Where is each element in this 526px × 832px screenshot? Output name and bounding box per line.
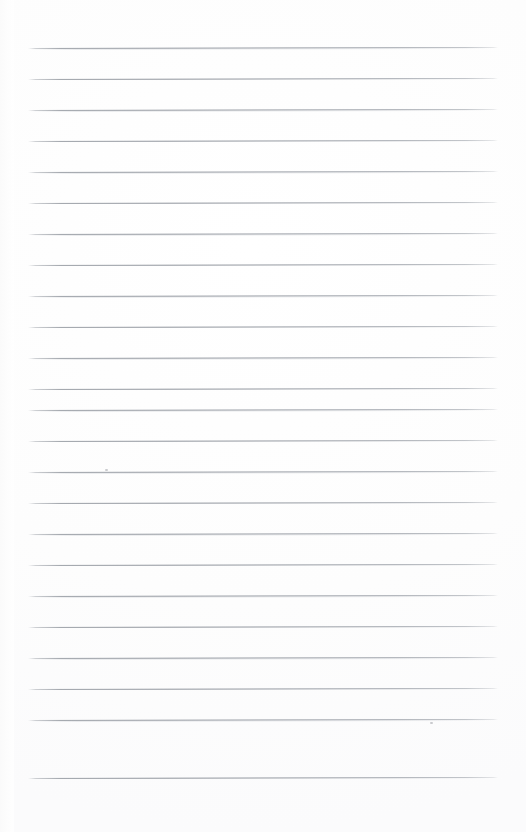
ruled-line [28, 719, 498, 721]
ruled-line [28, 171, 498, 173]
ruled-line [28, 326, 498, 328]
ruled-line-ghost [30, 658, 494, 660]
ruled-line-ghost [30, 296, 494, 298]
ruled-line [28, 657, 498, 659]
ruled-line-ghost [30, 720, 494, 722]
ruled-line-ghost [30, 234, 494, 236]
ruled-line [28, 295, 498, 297]
paper-texture [0, 0, 526, 832]
ruled-line [28, 626, 498, 628]
ruled-line [28, 47, 498, 49]
ruled-line [28, 409, 498, 411]
left-edge-scan-noise [0, 0, 14, 832]
ruled-line-ghost [30, 48, 494, 50]
ruled-line [28, 202, 498, 204]
ruled-line-ghost [30, 472, 494, 474]
notebook-page [0, 0, 526, 832]
ruled-line-ghost [30, 410, 494, 412]
ruled-line [28, 264, 498, 266]
ruled-line [28, 688, 498, 690]
ruled-lines-group [0, 0, 526, 832]
scan-speck-right [430, 722, 433, 724]
ruled-line-ghost [30, 110, 494, 112]
ruled-line-ghost [30, 534, 494, 536]
ruled-line [28, 440, 498, 442]
ruled-line [28, 777, 498, 779]
ruled-line [28, 78, 498, 80]
ruled-line-ghost [30, 596, 494, 598]
ruled-line [28, 564, 498, 566]
ruled-line [28, 533, 498, 535]
ruled-line [28, 471, 498, 473]
ruled-line [28, 140, 498, 142]
ruled-line [28, 502, 498, 504]
ruled-line [28, 109, 498, 111]
ruled-line [28, 233, 498, 235]
ruled-line [28, 595, 498, 597]
ruled-line-ghost [30, 358, 494, 360]
ruled-line-ghost [30, 172, 494, 174]
ruled-line [28, 357, 498, 359]
ruled-line [28, 388, 498, 390]
scan-speck-left [105, 469, 108, 471]
